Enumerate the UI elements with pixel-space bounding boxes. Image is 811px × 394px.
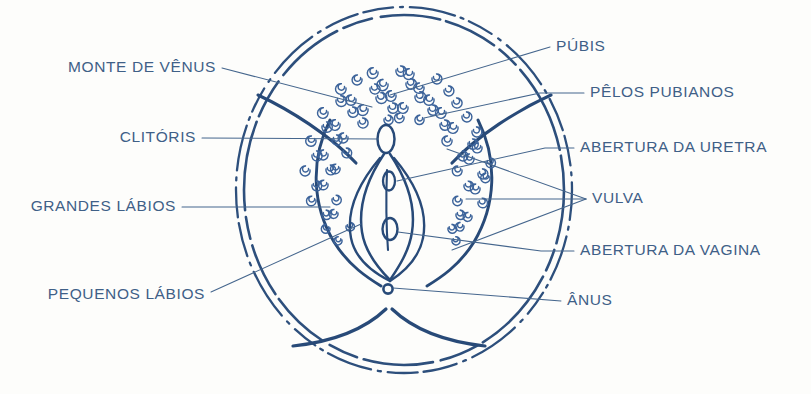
labia-majora-right bbox=[427, 120, 492, 286]
buttock-group bbox=[293, 309, 485, 346]
leader-vulva-upper bbox=[447, 149, 586, 199]
leader-clitoris bbox=[202, 138, 378, 139]
label-abertura-da-uretra: ABERTURA DA URETRA bbox=[580, 138, 767, 155]
leader-pequenos-labios bbox=[211, 224, 361, 292]
leader-monte-de-venus bbox=[222, 68, 372, 107]
vaginal-opening bbox=[383, 218, 398, 240]
label-clitoris: CLITÓRIS bbox=[120, 128, 196, 145]
groin-crease-group bbox=[258, 95, 551, 163]
anatomical-diagram: MONTE DE VÊNUS CLITÓRIS GRANDES LÁBIOS P… bbox=[0, 0, 811, 394]
label-anus: ÂNUS bbox=[567, 291, 612, 308]
labia-majora-group bbox=[316, 120, 492, 286]
leader-pelos-pubianos bbox=[424, 93, 584, 118]
label-abertura-da-vagina: ABERTURA DA VAGINA bbox=[580, 241, 761, 258]
label-vulva: VULVA bbox=[592, 189, 644, 206]
diagram-canvas: MONTE DE VÊNUS CLITÓRIS GRANDES LÁBIOS P… bbox=[0, 0, 811, 394]
urethral-opening bbox=[383, 172, 395, 191]
anus-group bbox=[383, 284, 392, 293]
label-grandes-labios: GRANDES LÁBIOS bbox=[31, 197, 176, 214]
label-pubis: PÚBIS bbox=[556, 37, 606, 54]
anus-shape bbox=[383, 284, 392, 293]
leader-pubis bbox=[390, 47, 550, 95]
vulva-inner-group bbox=[350, 125, 424, 281]
clitoris-shape bbox=[378, 125, 395, 153]
labia-majora-left bbox=[316, 120, 381, 286]
label-pelos-pubianos: PÊLOS PUBIANOS bbox=[590, 83, 735, 100]
buttock-right-curve bbox=[392, 309, 485, 346]
label-pequenos-labios: PEQUENOS LÁBIOS bbox=[48, 285, 205, 302]
label-monte-de-venus: MONTE DE VÊNUS bbox=[68, 58, 216, 75]
